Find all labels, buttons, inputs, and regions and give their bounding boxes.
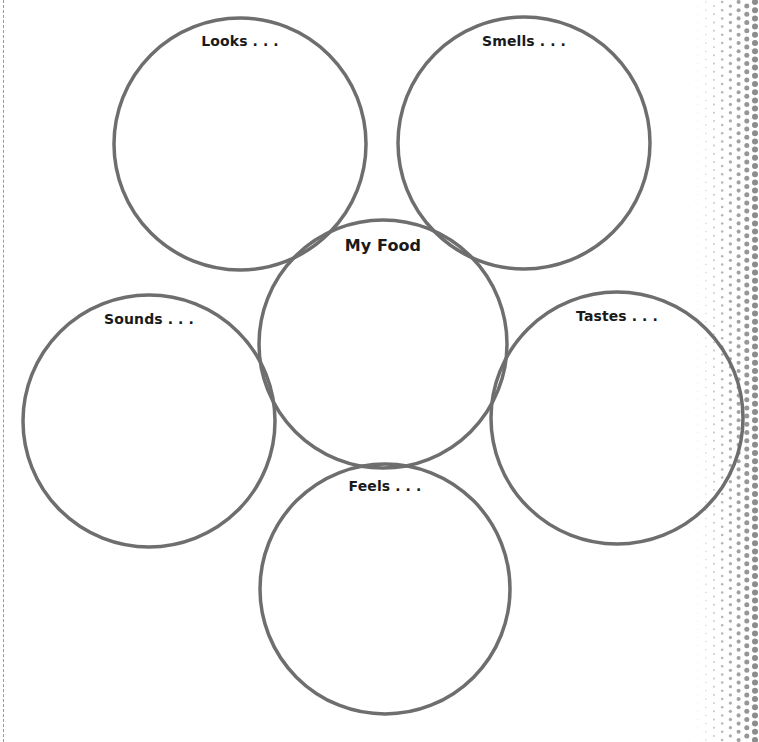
center-label-my-food: My Food bbox=[345, 236, 421, 255]
label-sounds: Sounds . . . bbox=[104, 311, 194, 327]
label-smells: Smells . . . bbox=[482, 33, 566, 49]
label-looks: Looks . . . bbox=[201, 33, 278, 49]
circle-sounds[interactable] bbox=[23, 295, 275, 547]
label-feels: Feels . . . bbox=[349, 478, 422, 494]
senses-web-diagram bbox=[0, 0, 759, 742]
circle-tastes[interactable] bbox=[491, 292, 743, 544]
circle-feels[interactable] bbox=[260, 464, 510, 714]
label-tastes: Tastes . . . bbox=[576, 308, 658, 324]
circle-looks[interactable] bbox=[114, 18, 366, 270]
worksheet-page: My Food Looks . . . Smells . . . Sounds … bbox=[0, 0, 759, 742]
circle-smells[interactable] bbox=[398, 17, 650, 269]
